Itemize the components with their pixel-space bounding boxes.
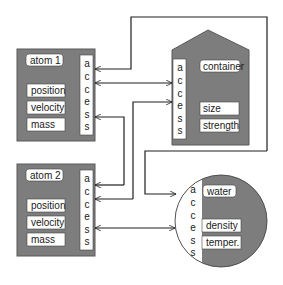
svg-text:e: e <box>177 100 183 111</box>
water-object: water density temper. a c c e s s <box>170 170 267 280</box>
container-field-size: size <box>203 103 221 114</box>
object-access-diagram: atom 1 position velocity mass a c c e s … <box>0 0 283 285</box>
water-field-temper: temper. <box>206 237 239 248</box>
svg-text:e: e <box>84 96 90 107</box>
atom2-field-velocity: velocity <box>31 217 64 228</box>
svg-text:s: s <box>178 113 183 124</box>
container-name: container <box>203 61 245 72</box>
water-field-density: density <box>206 220 238 231</box>
svg-text:s: s <box>178 125 183 136</box>
svg-text:c: c <box>178 75 183 86</box>
svg-text:s: s <box>85 121 90 132</box>
svg-text:c: c <box>191 197 196 208</box>
atom2-object: atom 2 position velocity mass a c c e s … <box>17 164 95 256</box>
svg-text:c: c <box>178 88 183 99</box>
svg-text:a: a <box>177 62 183 73</box>
svg-text:c: c <box>191 210 196 221</box>
svg-text:c: c <box>85 186 90 197</box>
atom1-field-mass: mass <box>31 119 55 130</box>
svg-text:c: c <box>85 199 90 210</box>
svg-text:e: e <box>190 222 196 233</box>
svg-text:s: s <box>85 236 90 247</box>
atom2-field-position: position <box>31 200 65 211</box>
water-name: water <box>206 186 232 197</box>
container-object: container size strength a c c e s s <box>172 30 249 145</box>
svg-text:a: a <box>84 173 90 184</box>
svg-text:a: a <box>190 184 196 195</box>
atom1-field-position: position <box>31 85 65 96</box>
container-field-strength: strength <box>203 120 239 131</box>
atom1-name: atom 1 <box>30 55 61 66</box>
svg-text:c: c <box>85 84 90 95</box>
svg-text:e: e <box>84 211 90 222</box>
svg-text:s: s <box>85 224 90 235</box>
svg-text:a: a <box>84 58 90 69</box>
atom2-name: atom 2 <box>30 170 61 181</box>
atom1-field-velocity: velocity <box>31 102 64 113</box>
svg-text:s: s <box>85 109 90 120</box>
svg-text:c: c <box>85 71 90 82</box>
svg-text:s: s <box>191 247 196 258</box>
atom2-field-mass: mass <box>31 234 55 245</box>
arrow-to-atom1-lower <box>95 117 124 185</box>
atom1-object: atom 1 position velocity mass a c c e s … <box>17 49 95 141</box>
svg-text:s: s <box>191 235 196 246</box>
